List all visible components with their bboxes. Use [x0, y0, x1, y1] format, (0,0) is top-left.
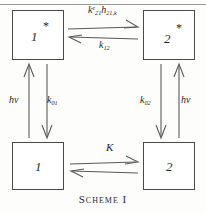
- state-box-ground-2: 2: [143, 142, 195, 190]
- state-box-label: 1: [31, 29, 38, 45]
- arrow-left-absorption-up: [22, 64, 38, 140]
- rate-subscript: 01: [51, 99, 57, 106]
- photon-energy: hν: [181, 94, 190, 105]
- state-box-label: 2: [164, 31, 171, 47]
- arrow-right-emission-down: [154, 64, 170, 140]
- rate-base: K: [106, 141, 113, 153]
- state-box-excited-2: 2 *: [143, 10, 195, 60]
- rate-label-right-decay: k02: [140, 95, 151, 106]
- state-box-label: 1: [35, 159, 42, 175]
- rate-subscript-2: 21,k: [106, 9, 116, 16]
- rate-subscript: 12: [103, 44, 109, 51]
- state-box-excited-1: 1 *: [12, 10, 64, 60]
- state-box-label: 2: [166, 159, 173, 175]
- arrow-bottom-reverse-left: [70, 167, 140, 181]
- state-box-ground-1: 1: [12, 142, 64, 190]
- excited-state-asterisk: *: [43, 20, 49, 32]
- photon-energy: hν: [9, 94, 18, 105]
- scheme-figure: 1 * 2 * 1 2: [0, 0, 206, 213]
- rate-label-left-decay: k01: [47, 95, 58, 106]
- rate-label-equilibrium-constant: K: [106, 142, 113, 153]
- excited-state-asterisk: *: [176, 22, 182, 34]
- rate-label-top-forward: ke21h21,k: [88, 5, 117, 16]
- rate-label-left-absorption: hν: [9, 95, 18, 105]
- rate-label-top-reverse: k12: [99, 40, 110, 51]
- rate-label-right-absorption: hν: [181, 95, 190, 105]
- arrow-top-forward-right: [68, 17, 140, 33]
- rate-subscript: 02: [144, 99, 150, 106]
- scheme-caption: Scheme I: [0, 193, 206, 205]
